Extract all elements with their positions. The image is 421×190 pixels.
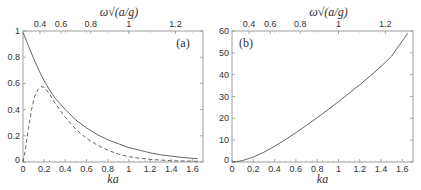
x-tick-label: 0.2 <box>38 164 51 174</box>
x-axis-label: ka <box>107 172 118 186</box>
top-x-tick-label: 1.2 <box>379 19 392 29</box>
y-tick-label: 30 <box>219 92 229 102</box>
y-tick-label: 50 <box>219 48 229 58</box>
top-x-tick-label: 0.8 <box>294 19 307 29</box>
y-tick-label: 0.6 <box>7 78 20 88</box>
plot-panel-b: 00.20.40.60.811.21.41.601020304050600.40… <box>219 5 413 186</box>
y-tick-label: 10 <box>219 135 229 145</box>
figure: 00.20.40.60.811.21.41.600.20.40.60.810.4… <box>0 0 421 190</box>
solid-curve <box>232 33 408 162</box>
x-tick-label: 0.4 <box>59 164 72 174</box>
y-tick-label: 0 <box>15 155 20 165</box>
x-tick-label: 0.4 <box>268 164 281 174</box>
panel-label: (b) <box>239 36 253 50</box>
top-x-tick-label: 0.8 <box>85 19 98 29</box>
y-tick-label: 40 <box>219 70 229 80</box>
dashed-curve <box>23 87 198 162</box>
top-x-axis-label: ω√(a/g) <box>309 5 347 19</box>
x-tick-label: 0.2 <box>247 164 260 174</box>
top-x-tick-label: 0.4 <box>243 19 256 29</box>
y-tick-label: 0.8 <box>7 52 20 62</box>
top-x-tick-label: 0.6 <box>264 19 277 29</box>
top-x-tick-label: 0.6 <box>55 19 68 29</box>
top-x-tick-label: 1.2 <box>169 19 182 29</box>
y-tick-label: 1 <box>15 26 20 36</box>
plot-panel-a: 00.20.40.60.811.21.41.600.20.40.60.810.4… <box>7 5 203 186</box>
y-tick-label: 20 <box>219 113 229 123</box>
x-tick-label: 0 <box>20 164 25 174</box>
x-tick-label: 1.2 <box>144 164 157 174</box>
x-tick-label: 0 <box>229 164 234 174</box>
y-tick-label: 0.2 <box>7 131 20 141</box>
axes-frame <box>23 31 203 162</box>
x-axis-label: ka <box>317 172 328 186</box>
top-x-axis-label: ω√(a/g) <box>100 5 138 19</box>
x-tick-label: 0.6 <box>290 164 303 174</box>
solid-curve <box>23 32 198 158</box>
y-tick-label: 60 <box>219 26 229 36</box>
y-tick-label: 0 <box>224 155 229 165</box>
x-tick-label: 1.4 <box>375 164 388 174</box>
x-tick-label: 1.6 <box>396 164 409 174</box>
top-x-tick-label: 1 <box>126 19 131 29</box>
x-tick-label: 1.6 <box>186 164 199 174</box>
x-tick-label: 1 <box>336 164 341 174</box>
panel-label: (a) <box>176 36 189 50</box>
top-x-tick-label: 0.4 <box>34 19 47 29</box>
y-tick-label: 0.4 <box>7 105 20 115</box>
top-x-tick-label: 1 <box>336 19 341 29</box>
x-tick-label: 1.2 <box>354 164 367 174</box>
x-tick-label: 1 <box>126 164 131 174</box>
x-tick-label: 0.6 <box>80 164 93 174</box>
x-tick-label: 1.4 <box>165 164 178 174</box>
axes-frame <box>232 31 413 162</box>
